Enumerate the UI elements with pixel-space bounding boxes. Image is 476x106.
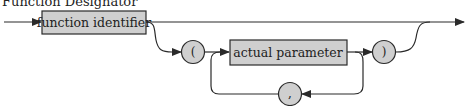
close-paren-merge: [396, 22, 430, 52]
close-paren-terminal: ): [373, 41, 396, 64]
actual-parameter-box: actual parameter: [230, 40, 347, 65]
comma-terminal: ,: [279, 83, 302, 106]
open-paren-terminal: (: [182, 41, 205, 64]
branch-to-open-paren: [146, 22, 181, 52]
function-identifier-box: function identifier: [37, 11, 152, 34]
close-paren-label: ): [382, 45, 387, 59]
function-identifier-label: function identifier: [37, 15, 152, 30]
actual-parameter-label: actual parameter: [233, 45, 343, 60]
comma-label: ,: [288, 86, 292, 100]
open-paren-label: (: [191, 45, 196, 59]
syntax-diagram: function identifier ( actual parameter )…: [0, 0, 476, 106]
